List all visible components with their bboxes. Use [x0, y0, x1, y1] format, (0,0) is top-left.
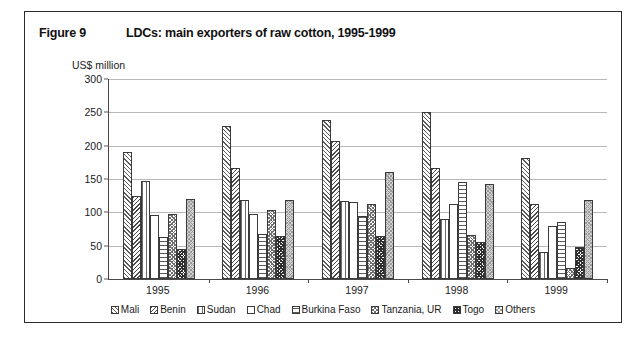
figure-number: Figure 9	[39, 26, 86, 40]
legend-swatch-icon	[150, 306, 158, 314]
bar	[476, 242, 485, 279]
bar	[132, 196, 141, 279]
x-tick-mark	[209, 279, 210, 283]
y-tick-label: 200	[84, 140, 102, 152]
legend-label: Chad	[257, 304, 281, 315]
legend-label: Sudan	[207, 304, 236, 315]
bar	[566, 268, 575, 279]
bar	[422, 112, 431, 279]
y-axis-unit-label: US$ million	[72, 59, 125, 71]
bar	[159, 237, 168, 279]
y-axis: 050100150200250300	[72, 79, 102, 279]
legend-swatch-icon	[495, 306, 503, 314]
bar	[322, 120, 331, 279]
x-tick-label: 1997	[345, 284, 368, 296]
bar	[431, 168, 440, 279]
bar	[231, 168, 240, 279]
bar	[575, 247, 584, 279]
legend-swatch-icon	[292, 306, 300, 314]
bar	[349, 202, 358, 279]
x-axis: 19951996199719981999	[108, 284, 606, 300]
bar	[521, 158, 530, 279]
legend-label: Others	[505, 304, 535, 315]
bar	[557, 222, 566, 279]
y-tick-label: 0	[96, 273, 102, 285]
legend-swatch-icon	[247, 306, 255, 314]
bar	[276, 236, 285, 279]
legend-swatch-icon	[371, 306, 379, 314]
bar	[530, 204, 539, 279]
bar	[150, 215, 159, 279]
bar	[385, 172, 394, 279]
figure-header: Figure 9 LDCs: main exporters of raw cot…	[39, 26, 396, 40]
bars-layer	[109, 79, 607, 279]
legend-label: Benin	[160, 304, 186, 315]
x-tick-label: 1998	[445, 284, 468, 296]
bar	[485, 184, 494, 279]
bar	[449, 204, 458, 279]
y-tick-label: 300	[84, 73, 102, 85]
bar	[285, 200, 294, 279]
bar	[358, 216, 367, 279]
legend-item[interactable]: Togo	[453, 304, 485, 315]
x-tick-label: 1995	[146, 284, 169, 296]
x-tick-label: 1999	[545, 284, 568, 296]
legend-item[interactable]: Others	[495, 304, 535, 315]
bar	[222, 126, 231, 279]
bar	[258, 234, 267, 279]
legend-label: Mali	[121, 304, 139, 315]
bar	[177, 249, 186, 279]
chart-legend: MaliBeninSudanChadBurkina FasoTanzania, …	[25, 304, 621, 315]
x-tick-mark	[507, 279, 508, 283]
bar	[267, 210, 276, 279]
x-tick-mark	[308, 279, 309, 283]
bar	[584, 200, 593, 279]
bar	[376, 236, 385, 279]
legend-swatch-icon	[453, 306, 461, 314]
bar	[340, 201, 349, 279]
legend-label: Togo	[463, 304, 485, 315]
bar	[467, 235, 476, 279]
legend-label: Burkina Faso	[302, 304, 361, 315]
bar	[331, 141, 340, 279]
figure-frame: Figure 9 LDCs: main exporters of raw cot…	[24, 11, 622, 323]
bar	[440, 219, 449, 279]
bar	[186, 199, 195, 279]
y-tick-label: 100	[84, 206, 102, 218]
bar-group	[109, 79, 209, 279]
x-tick-label: 1996	[246, 284, 269, 296]
legend-item[interactable]: Sudan	[197, 304, 236, 315]
bar-group	[209, 79, 309, 279]
bar	[249, 214, 258, 279]
chart-plot-wrapper: 050100150200250300 19951996199719981999	[72, 79, 606, 286]
bar-group	[507, 79, 607, 279]
bar	[367, 204, 376, 279]
bar-group	[408, 79, 508, 279]
legend-item[interactable]: Mali	[111, 304, 139, 315]
x-tick-mark	[607, 279, 608, 283]
y-tick-label: 250	[84, 106, 102, 118]
legend-item[interactable]: Benin	[150, 304, 186, 315]
legend-swatch-icon	[111, 306, 119, 314]
legend-item[interactable]: Chad	[247, 304, 281, 315]
x-tick-mark	[408, 279, 409, 283]
figure-title: LDCs: main exporters of raw cotton, 1995…	[126, 26, 396, 40]
bar	[539, 252, 548, 279]
legend-item[interactable]: Burkina Faso	[292, 304, 361, 315]
legend-item[interactable]: Tanzania, UR	[371, 304, 441, 315]
bar	[123, 152, 132, 279]
bar	[141, 181, 150, 279]
y-tick-label: 50	[90, 240, 102, 252]
bar-group	[308, 79, 408, 279]
legend-label: Tanzania, UR	[381, 304, 441, 315]
bar	[168, 214, 177, 279]
plot-area	[108, 79, 607, 280]
bar	[458, 182, 467, 279]
bar	[548, 226, 557, 279]
legend-swatch-icon	[197, 306, 205, 314]
bar	[240, 200, 249, 279]
y-tick-label: 150	[84, 173, 102, 185]
